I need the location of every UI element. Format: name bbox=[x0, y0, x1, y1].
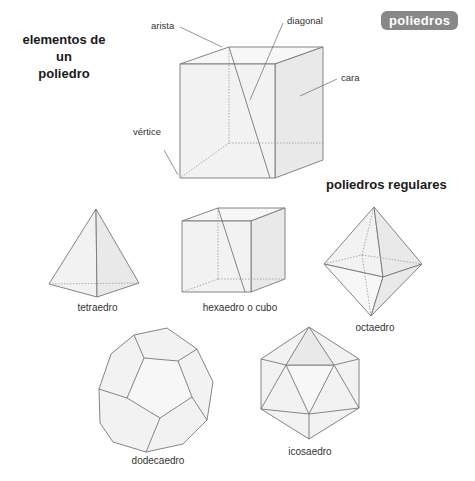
label-arista: arista bbox=[151, 20, 174, 31]
label-cara: cara bbox=[341, 72, 359, 83]
caption-dodecaedro: dodecaedro bbox=[118, 455, 198, 466]
hexahedron-drawing bbox=[182, 208, 285, 292]
icosahedron-drawing bbox=[261, 327, 359, 439]
dodecahedron-drawing bbox=[99, 328, 213, 452]
elements-title: elementos de un poliedro bbox=[14, 31, 114, 82]
label-vertice: vértice bbox=[133, 126, 161, 137]
elements-title-line2: poliedro bbox=[14, 65, 114, 82]
section-badge: poliedros bbox=[381, 11, 458, 30]
caption-icosaedro: icosaedro bbox=[275, 446, 345, 457]
caption-tetraedro: tetraedro bbox=[60, 302, 135, 313]
octahedron-drawing bbox=[324, 207, 422, 316]
label-diagonal: diagonal bbox=[287, 15, 323, 26]
caption-octaedro: octaedro bbox=[340, 322, 410, 333]
main-cube-drawing bbox=[164, 23, 337, 178]
regular-polyhedra-title: poliedros regulares bbox=[326, 176, 447, 193]
elements-title-line1: elementos de un bbox=[14, 31, 114, 65]
tetrahedron-drawing bbox=[49, 209, 139, 297]
caption-hexaedro: hexaedro o cubo bbox=[190, 302, 290, 313]
